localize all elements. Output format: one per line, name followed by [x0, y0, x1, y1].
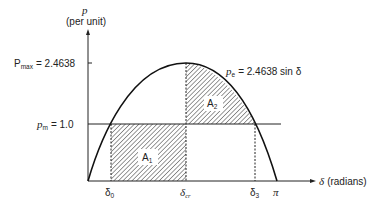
x-axis-label: δ(radians) — [319, 175, 367, 187]
curve-equation-label: pe= 2.4638 sin δ — [225, 65, 302, 78]
tick-pi: π — [273, 186, 279, 198]
pmax-label: Pmax= 2.4638 — [14, 58, 76, 70]
x-axis-arrow-icon — [310, 179, 316, 183]
y-axis-arrow-icon — [86, 29, 90, 35]
pm-label: pm= 1.0 — [36, 118, 74, 131]
tick-delta3: δ3 — [250, 187, 260, 199]
tick-deltacr: δcr — [180, 186, 191, 199]
y-axis-unit: (per unit) — [66, 16, 106, 27]
tick-delta0: δ0 — [105, 187, 115, 199]
y-axis-symbol: p — [81, 4, 88, 16]
power-angle-diagram: p (per unit) Pmax= 2.4638 pm= 1.0 pe= 2.… — [0, 0, 375, 205]
